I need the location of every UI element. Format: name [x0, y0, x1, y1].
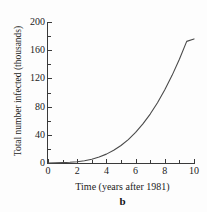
y-axis-title: Total number infected (thousands): [13, 16, 23, 166]
chart-figure: 04080120160200 0246810 Total number infe…: [0, 0, 207, 212]
x-axis-title: Time (years after 1981): [40, 181, 205, 192]
series-line-total-infected: [48, 39, 194, 163]
panel-caption: b: [40, 195, 205, 207]
plot-area: 04080120160200 0246810 Total number infe…: [0, 0, 207, 212]
